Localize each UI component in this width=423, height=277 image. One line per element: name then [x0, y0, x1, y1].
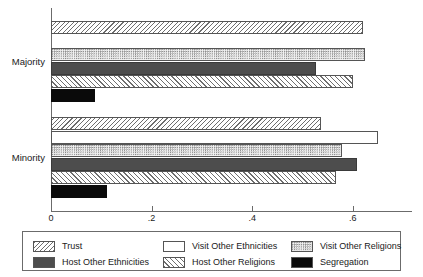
legend-item-visit-other-ethnicities[interactable]: Visit Other Ethnicities [163, 240, 277, 252]
legend-swatch-icon [163, 241, 185, 252]
x-tick-label: .2 [148, 213, 156, 224]
legend: TrustVisit Other EthnicitiesVisit Other … [22, 231, 401, 271]
x-tick-mark [353, 206, 354, 212]
group-label-majority: Majority [0, 56, 45, 67]
legend-swatch-icon [291, 241, 313, 252]
x-tick-mark [51, 206, 52, 212]
legend-item-host-other-religions[interactable]: Host Other Religions [163, 256, 275, 268]
x-tick-label: .4 [248, 213, 256, 224]
bar-majority-segregation [51, 89, 95, 102]
legend-item-visit-other-religions[interactable]: Visit Other Religions [291, 240, 401, 252]
legend-item-host-other-ethnicities[interactable]: Host Other Ethnicities [33, 256, 149, 268]
plot-area: Majority Minority 0.2.4.6 [0, 0, 423, 212]
x-tick-mark [152, 206, 153, 212]
bar-minority-host-other-religions [51, 171, 336, 184]
legend-swatch-icon [33, 241, 55, 252]
legend-label: Visit Other Ethnicities [192, 241, 277, 252]
legend-items: TrustVisit Other EthnicitiesVisit Other … [23, 232, 400, 270]
legend-swatch-icon [291, 257, 313, 268]
legend-label: Host Other Ethnicities [62, 257, 149, 268]
bar-majority-visit-other-religions [51, 48, 365, 61]
legend-item-trust[interactable]: Trust [33, 240, 82, 252]
x-axis-line [51, 211, 412, 212]
bar-minority-visit-other-ethnicities [51, 131, 378, 144]
legend-swatch-icon [163, 257, 185, 268]
x-tick-label: .6 [349, 213, 357, 224]
legend-label: Host Other Religions [192, 257, 275, 268]
bar-chart: Majority Minority 0.2.4.6 TrustVisit Oth… [0, 0, 423, 277]
x-tick-mark [252, 206, 253, 212]
group-label-minority: Minority [0, 152, 45, 163]
legend-label: Trust [62, 241, 82, 252]
bar-majority-trust [51, 21, 363, 34]
legend-swatch-icon [33, 257, 55, 268]
bar-majority-host-other-ethnicities [51, 62, 316, 75]
legend-item-segregation[interactable]: Segregation [291, 256, 369, 268]
bar-majority-host-other-religions [51, 75, 353, 88]
bar-minority-visit-other-religions [51, 144, 342, 157]
x-tick-label: 0 [48, 213, 53, 224]
legend-label: Visit Other Religions [320, 241, 401, 252]
bar-minority-trust [51, 117, 321, 130]
legend-label: Segregation [320, 257, 369, 268]
bar-minority-segregation [51, 185, 107, 198]
bar-minority-host-other-ethnicities [51, 158, 357, 171]
